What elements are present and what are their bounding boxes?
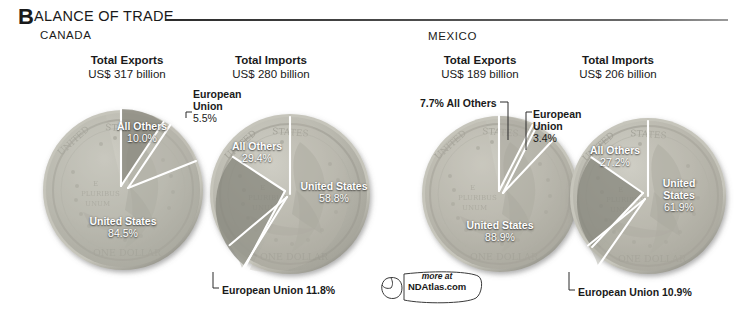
caption-mexico-imports: Total Imports US$ 206 billion	[553, 54, 683, 81]
slice-pct: 58.8%	[319, 192, 349, 204]
header-rule-divider	[165, 19, 728, 21]
ndatlas-url-label: NDAtlas.com	[408, 282, 466, 293]
callout-pct: 5.5%	[193, 112, 217, 124]
slice-name-line1: United	[663, 177, 696, 189]
caption-value: US$ 206 billion	[553, 68, 683, 82]
slice-name: United States	[89, 215, 156, 227]
callout-mexico-exports-eu: European Union 3.4%	[533, 108, 603, 144]
mouse-icon	[382, 277, 402, 298]
callout-canada-exports-eu: European Union 5.5%	[193, 88, 273, 124]
caption-canada-imports: Total Imports US$ 280 billion	[206, 54, 336, 81]
callout-mexico-imports-eu: European Union 10.9%	[578, 286, 692, 298]
pie-label-mexico-exports-us: United States 88.9%	[436, 219, 564, 243]
slice-pct: 27.2%	[600, 156, 630, 168]
slice-name: All Others	[232, 140, 282, 152]
page-title: BALANCE OF TRADE	[18, 6, 174, 28]
caption-title: Total Imports	[206, 54, 336, 68]
caption-canada-exports: Total Exports US$ 317 billion	[62, 54, 192, 81]
ndatlas-badge[interactable]: more at NDAtlas.com	[378, 268, 488, 308]
slice-name: United States	[466, 219, 533, 231]
caption-value: US$ 317 billion	[62, 68, 192, 82]
pie-label-canada-imports-us: United States 58.8%	[273, 180, 395, 204]
caption-title: Total Imports	[553, 54, 683, 68]
pie-label-canada-imports-allothers: All Others 29.4%	[226, 140, 288, 164]
page-title-dropcap: B	[18, 4, 34, 29]
pie-label-canada-exports-allothers: All Others 10.0%	[111, 120, 173, 144]
slice-name: United States	[300, 180, 367, 192]
slice-pct: 61.9%	[664, 201, 694, 213]
ndatlas-badge-text: more at NDAtlas.com	[408, 272, 466, 293]
caption-mexico-exports: Total Exports US$ 189 billion	[415, 54, 545, 81]
callout-pct: 3.4%	[533, 132, 557, 144]
caption-value: US$ 189 billion	[415, 68, 545, 82]
caption-title: Total Exports	[62, 54, 192, 68]
pie-label-canada-exports-us: United States 84.5%	[58, 215, 188, 239]
slice-pct: 88.9%	[485, 231, 515, 243]
callout-mexico-exports-allothers: 7.7% All Others	[420, 97, 497, 109]
pie-label-mexico-imports-allothers: All Others 27.2%	[584, 144, 646, 168]
pie-label-mexico-imports-us: United States 61.9%	[648, 177, 710, 214]
slice-name-line2: States	[663, 189, 695, 201]
slice-name: All Others	[590, 144, 640, 156]
slice-pct: 10.0%	[127, 132, 157, 144]
callout-canada-imports-eu: European Union 11.8%	[222, 284, 335, 296]
caption-value: US$ 280 billion	[206, 68, 336, 82]
country-heading-mexico: MEXICO	[428, 30, 477, 42]
country-heading-canada: CANADA	[40, 29, 92, 41]
slice-name: All Others	[117, 120, 167, 132]
page-title-rest: ALANCE OF TRADE	[34, 8, 174, 24]
slice-pct: 84.5%	[108, 227, 138, 239]
caption-title: Total Exports	[415, 54, 545, 68]
slice-pct: 29.4%	[242, 152, 272, 164]
callout-name: European Union	[533, 108, 581, 132]
callout-name: European Union	[193, 88, 241, 112]
